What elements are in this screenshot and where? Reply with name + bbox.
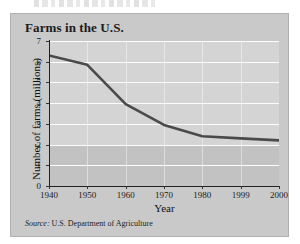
chart-title: Farms in the U.S. bbox=[25, 20, 124, 36]
x-tick-1980 bbox=[202, 186, 203, 189]
y-tick-2 bbox=[46, 145, 49, 146]
y-tick-1 bbox=[46, 165, 49, 166]
x-tick-label-2000: 2000 bbox=[270, 190, 288, 200]
y-tick-4 bbox=[46, 103, 49, 104]
x-tick-1999 bbox=[241, 186, 242, 189]
x-tick-label-1999: 1999 bbox=[232, 190, 250, 200]
x-tick-2000 bbox=[279, 186, 280, 189]
x-axis-title: Year bbox=[49, 202, 280, 214]
x-tick-1940 bbox=[49, 186, 50, 189]
data-series-line bbox=[49, 41, 279, 186]
x-tick-label-1940: 1940 bbox=[40, 190, 58, 200]
source-note: Source: U.S. Department of Agriculture bbox=[25, 219, 153, 228]
x-tick-1970 bbox=[164, 186, 165, 189]
x-tick-1960 bbox=[126, 186, 127, 189]
y-tick-5 bbox=[46, 82, 49, 83]
x-tick-label-1960: 1960 bbox=[117, 190, 135, 200]
x-tick-1950 bbox=[87, 186, 88, 189]
plot-area bbox=[49, 41, 279, 186]
x-tick-label-1950: 1950 bbox=[78, 190, 96, 200]
source-label: Source: bbox=[25, 219, 50, 228]
source-value: U.S. Department of Agriculture bbox=[52, 219, 153, 228]
y-tick-7 bbox=[46, 41, 49, 42]
x-tick-label-1980: 1980 bbox=[193, 190, 211, 200]
y-axis-line bbox=[49, 40, 50, 187]
y-tick-3 bbox=[46, 124, 49, 125]
y-tick-6 bbox=[46, 62, 49, 63]
y-axis-title: Number of farms (millions) bbox=[30, 44, 42, 194]
scan-edge-artifact bbox=[34, 0, 159, 7]
x-tick-label-1970: 1970 bbox=[155, 190, 173, 200]
figure-panel: Farms in the U.S. 01234567 1940195019601… bbox=[10, 13, 289, 237]
